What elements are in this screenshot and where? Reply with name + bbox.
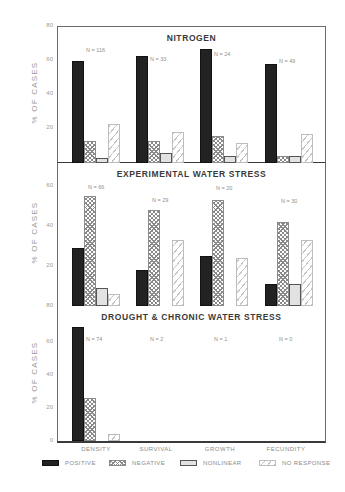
ytick-60-panel-1: 60	[33, 56, 53, 62]
ytick-20-panel-2: 20	[33, 262, 53, 268]
no-response-swatch-icon	[259, 460, 276, 466]
n-label: N = 0	[279, 336, 292, 342]
bar-positive-survival	[136, 270, 148, 306]
bar-no-response-density	[108, 124, 120, 163]
bar-no-response-growth	[236, 258, 248, 306]
n-label: N = 30	[281, 198, 297, 204]
panel-title: NITROGEN	[58, 33, 325, 43]
chart-panel-experimental-water-stress: EXPERIMENTAL WATER STRESS N = 66N = 29N …	[57, 163, 326, 308]
ytick-40-panel-2: 40	[33, 222, 53, 228]
ytick-40-panel-1: 40	[33, 90, 53, 96]
ytick-20-panel-1: 20	[33, 124, 53, 130]
chart-panel-drought-chronic-water-stress: DROUGHT & CHRONIC WATER STRESS N = 74N =…	[57, 306, 326, 443]
bar-nonlinear-fecundity	[289, 156, 301, 163]
bar-positive-growth	[200, 49, 212, 163]
n-label: N = 66	[88, 184, 104, 190]
ytick-60-panel-3: 60	[33, 338, 53, 344]
ytick-80-panel-2: 80	[33, 302, 53, 308]
ytick-40-panel-3: 40	[33, 371, 53, 377]
bar-negative-density	[84, 141, 96, 163]
bar-negative-density	[84, 398, 96, 441]
bar-negative-density	[84, 196, 96, 306]
n-label: N = 116	[86, 47, 105, 53]
negative-swatch-icon	[109, 460, 126, 466]
bar-nonlinear-density	[96, 288, 108, 306]
bar-no-response-density	[108, 294, 120, 306]
bar-negative-survival	[148, 210, 160, 306]
ytick-80-panel-1: 80	[33, 22, 53, 28]
ytick-60-panel-2: 60	[33, 182, 53, 188]
bar-negative-growth	[212, 200, 224, 306]
legend-item-negative: NEGATIVE	[109, 460, 165, 466]
panel-title: EXPERIMENTAL WATER STRESS	[58, 169, 325, 179]
bar-positive-density	[72, 327, 84, 441]
bar-no-response-growth	[236, 143, 248, 163]
bar-no-response-survival	[172, 132, 184, 163]
legend-item-nonlinear: NONLINEAR	[180, 460, 242, 466]
bar-nonlinear-fecundity	[289, 284, 301, 306]
x-category-growth: GROWTH	[185, 446, 255, 452]
legend-item-positive: POSITIVE	[42, 460, 96, 466]
legend-item-no-response: NO RESPONSE	[259, 460, 330, 466]
panel-title: DROUGHT & CHRONIC WATER STRESS	[58, 312, 325, 322]
bar-no-response-fecundity	[301, 240, 313, 306]
legend: POSITIVE NEGATIVE NONLINEAR NO RESPONSE	[42, 460, 342, 472]
n-label: N = 74	[86, 336, 102, 342]
x-category-fecundity: FECUNDITY	[251, 446, 321, 452]
ytick-20-panel-3: 20	[33, 404, 53, 410]
y-axis-label-panel-2: % OF CASES	[30, 193, 39, 273]
n-label: N = 33	[150, 56, 166, 62]
n-label: N = 1	[214, 336, 227, 342]
bar-negative-growth	[212, 136, 224, 163]
bar-no-response-density	[108, 434, 120, 441]
positive-swatch-icon	[42, 460, 59, 466]
bar-positive-growth	[200, 256, 212, 306]
bar-positive-survival	[136, 56, 148, 163]
bar-negative-fecundity	[277, 156, 289, 163]
n-label: N = 20	[216, 185, 232, 191]
nonlinear-swatch-icon	[180, 460, 197, 466]
bar-negative-fecundity	[277, 222, 289, 306]
n-label: N = 24	[214, 51, 230, 57]
bar-positive-fecundity	[265, 64, 277, 163]
x-category-survival: SURVIVAL	[121, 446, 191, 452]
bar-no-response-fecundity	[301, 134, 313, 163]
chart-panel-nitrogen: NITROGEN N = 116N = 33N = 24N = 49	[57, 26, 326, 164]
bar-positive-fecundity	[265, 284, 277, 306]
bar-nonlinear-growth	[224, 156, 236, 163]
bar-no-response-survival	[172, 240, 184, 306]
bar-positive-density	[72, 61, 84, 163]
bar-nonlinear-survival	[160, 153, 172, 163]
bar-positive-density	[72, 248, 84, 306]
bar-negative-survival	[148, 141, 160, 163]
ytick-0-panel-3: 0	[33, 437, 53, 443]
n-label: N = 49	[279, 58, 295, 64]
n-label: N = 29	[152, 197, 168, 203]
n-label: N = 2	[150, 336, 163, 342]
